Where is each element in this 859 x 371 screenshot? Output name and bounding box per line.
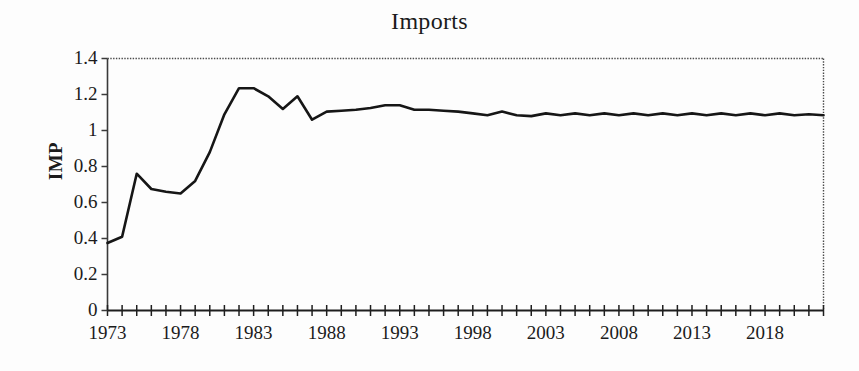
data-series-line: [108, 88, 824, 243]
y-tick-label: 0.6: [52, 191, 98, 213]
x-tick-label: 1973: [73, 322, 143, 344]
y-tick-label: 0: [52, 299, 98, 321]
x-tick-label: 2018: [730, 322, 800, 344]
x-tick-label: 2008: [584, 322, 654, 344]
x-tick-label: 1993: [365, 322, 435, 344]
axis-major-ticks: [102, 59, 108, 311]
x-tick-label: 1998: [438, 322, 508, 344]
chart-figure: Imports IMP 1.41.210.80.60.40.20 1973197…: [0, 0, 859, 371]
axis-frame: [108, 59, 824, 311]
x-tick-label: 2003: [511, 322, 581, 344]
x-tick-label: 1988: [292, 322, 362, 344]
x-tick-label: 1978: [146, 322, 216, 344]
x-tick-label: 1983: [219, 322, 289, 344]
y-tick-label: 1.2: [52, 83, 98, 105]
y-tick-label: 1.4: [52, 47, 98, 69]
y-tick-label: 0.2: [52, 263, 98, 285]
plot-area: [0, 0, 859, 371]
y-tick-label: 0.4: [52, 227, 98, 249]
y-tick-label: 0.8: [52, 155, 98, 177]
x-tick-label: 2013: [657, 322, 727, 344]
y-tick-label: 1: [52, 119, 98, 141]
